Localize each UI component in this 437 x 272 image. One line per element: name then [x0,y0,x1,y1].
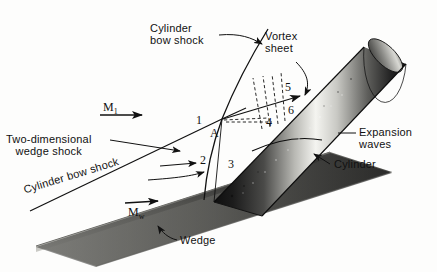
region-number-3: 3 [228,157,234,172]
leader-cylinder-bow-shock-top [219,35,262,44]
region-number-4: 4 [266,115,272,130]
label-expansion-waves: Expansion waves [359,126,412,150]
label-two-dimensional-wedge-shock: Two-dimensional wedge shock [6,133,92,157]
label-cylinder-bow-shock-top: Cylinder bow shock [150,22,204,46]
region-number-2: 2 [200,153,206,168]
mach-freestream-subscript: 1 [114,107,118,116]
label-cylinder: Cylinder [334,158,376,170]
expansion-fan-dashed [224,72,285,129]
mach-freestream-symbol: M [103,100,114,114]
leader-vortex-sheet [296,62,308,95]
label-wedge: Wedge [180,234,216,246]
label-vortex-sheet: Vortex sheet [265,30,297,54]
region-number-1: 1 [196,113,202,128]
label-point-a: A [210,126,219,141]
figure-canvas: Cylinder bow shock Vortex sheet Two-dime… [0,0,437,272]
region-number-5: 5 [285,80,291,95]
label-mach-freestream: M1 [103,100,118,116]
mach-wedge-symbol: M [128,205,139,219]
region-2-arrow [160,163,196,166]
mach-wedge-subscript: w [139,212,145,221]
machw-arrow [125,201,158,203]
label-mach-wedge: Mw [128,205,144,221]
leader-cylinder-bow-shock-lower [148,172,204,180]
leader-wedge-shock [110,140,180,151]
region-number-6: 6 [288,103,294,118]
